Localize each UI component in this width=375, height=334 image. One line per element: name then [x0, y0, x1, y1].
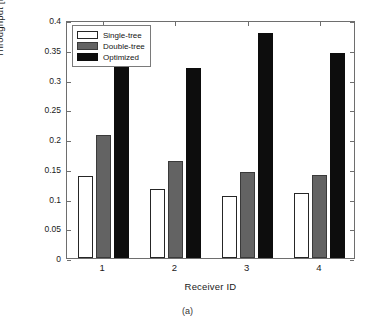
y-tick-label: 0.2	[20, 135, 61, 145]
bar-optimized-receiver-2	[186, 68, 201, 258]
legend-swatch-double-tree-icon	[77, 42, 98, 50]
y-tick-mark	[67, 111, 71, 112]
legend-label-optimized: Optimized	[103, 53, 139, 62]
y-tick-mark-right	[350, 230, 354, 231]
bar-single-tree-receiver-4	[294, 193, 309, 258]
y-tick-mark-right	[350, 171, 354, 172]
legend-label-single-tree: Single-tree	[103, 31, 142, 40]
y-tick-mark-right	[350, 141, 354, 142]
y-tick-label: 0.35	[20, 46, 61, 56]
bar-optimized-receiver-1	[114, 63, 129, 258]
figure-caption: (a)	[0, 306, 375, 316]
x-tick-label: 1	[87, 262, 117, 273]
bar-double-tree-receiver-3	[240, 172, 255, 258]
y-tick-mark-right	[350, 260, 354, 261]
x-tick-label: 3	[232, 262, 262, 273]
legend-item-double-tree: Double-tree	[77, 41, 145, 51]
y-tick-mark	[67, 171, 71, 172]
x-axis-label: Receiver ID	[66, 281, 355, 292]
legend-label-double-tree: Double-tree	[103, 42, 145, 51]
x-tick-mark-top	[175, 22, 176, 26]
y-tick-mark-right	[350, 22, 354, 23]
y-tick-mark	[67, 82, 71, 83]
y-tick-label: 0.05	[20, 224, 61, 234]
y-tick-mark	[67, 260, 71, 261]
legend-swatch-optimized-icon	[77, 53, 98, 61]
y-tick-label: 0.3	[20, 76, 61, 86]
legend-item-single-tree: Single-tree	[77, 30, 145, 40]
y-tick-label: 0.4	[20, 16, 61, 26]
y-tick-label: 0.25	[20, 105, 61, 115]
legend-item-optimized: Optimized	[77, 52, 145, 62]
x-tick-label: 4	[304, 262, 334, 273]
bar-double-tree-receiver-4	[312, 175, 327, 258]
y-tick-mark-right	[350, 82, 354, 83]
y-tick-mark	[67, 52, 71, 53]
y-tick-label: 0	[20, 254, 61, 264]
y-tick-label: 0.1	[20, 195, 61, 205]
y-axis-label: Throughput [Mbps]	[0, 0, 5, 96]
y-tick-mark-right	[350, 111, 354, 112]
y-tick-mark-right	[350, 52, 354, 53]
y-tick-mark-right	[350, 201, 354, 202]
figure-container: Throughput [Mbps] 00.050.10.150.20.250.3…	[0, 0, 375, 334]
x-tick-label: 2	[159, 262, 189, 273]
bar-double-tree-receiver-1	[96, 135, 111, 258]
legend-swatch-single-tree-icon	[77, 31, 98, 39]
bar-optimized-receiver-4	[330, 53, 345, 258]
y-tick-mark	[67, 230, 71, 231]
bar-single-tree-receiver-3	[222, 196, 237, 258]
bar-double-tree-receiver-2	[168, 161, 183, 258]
x-tick-mark-top	[248, 22, 249, 26]
bar-single-tree-receiver-1	[78, 176, 93, 258]
y-tick-mark	[67, 201, 71, 202]
y-tick-mark	[67, 141, 71, 142]
y-tick-label: 0.15	[20, 165, 61, 175]
x-tick-mark-top	[320, 22, 321, 26]
bar-optimized-receiver-3	[258, 33, 273, 258]
bar-single-tree-receiver-2	[150, 189, 165, 258]
legend: Single-tree Double-tree Optimized	[72, 25, 151, 67]
y-tick-mark	[67, 22, 71, 23]
plot-area: Single-tree Double-tree Optimized	[66, 21, 355, 259]
